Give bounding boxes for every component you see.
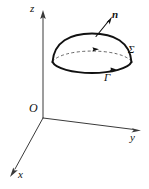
surface-dome-arc xyxy=(53,34,132,63)
y-axis xyxy=(43,118,141,133)
surface-label: Σ xyxy=(128,44,135,55)
figure-container: z y x O n Σ Γ xyxy=(0,0,149,189)
x-axis-line xyxy=(15,118,43,169)
z-axis xyxy=(40,10,46,118)
y-axis-line xyxy=(43,118,134,130)
boundary-curve-gamma xyxy=(53,62,132,73)
surface-sigma xyxy=(53,34,132,73)
coordinate-system-diagram xyxy=(0,0,149,189)
x-axis xyxy=(10,118,43,177)
x-axis-label: x xyxy=(18,169,23,180)
hidden-back-arc xyxy=(53,47,132,62)
z-axis-label: z xyxy=(30,3,34,14)
origin-label: O xyxy=(29,102,38,114)
hidden-arc-path xyxy=(53,51,132,62)
boundary-label: Γ xyxy=(104,72,110,83)
x-axis-arrowhead xyxy=(10,168,18,177)
y-axis-label: y xyxy=(130,132,135,143)
normal-vector-label: n xyxy=(112,9,118,20)
